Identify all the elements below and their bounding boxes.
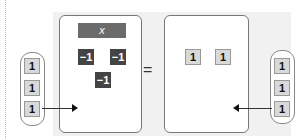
one-tile: 1 [185,49,201,65]
one-tile: 1 [274,101,290,117]
equals-sign: = [143,61,152,79]
right-side-box [164,15,249,133]
arrow-line [239,108,272,109]
one-tile: 1 [24,80,40,96]
x-tile: x [78,23,126,38]
arrow-left-icon [233,104,239,112]
one-tile: 1 [274,80,290,96]
negative-one-tile: −1 [78,49,94,65]
one-tile: 1 [24,101,40,117]
dotted-margin-line [5,0,6,139]
one-tile: 1 [215,49,231,65]
one-tile: 1 [24,58,40,74]
arrow-line [42,108,72,109]
negative-one-tile: −1 [110,49,126,65]
negative-one-tile: −1 [95,72,111,88]
one-tile: 1 [274,58,290,74]
arrow-right-icon [72,104,78,112]
